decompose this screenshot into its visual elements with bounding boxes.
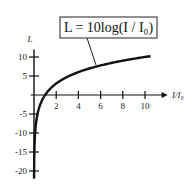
y-tick-label: -15: [15, 147, 27, 157]
y-tick-label: 10: [18, 52, 28, 62]
x-axis-arrow: [162, 92, 168, 98]
y-tick-label: -10: [15, 128, 27, 138]
y-tick-label: -5: [20, 109, 28, 119]
axes: [31, 49, 168, 178]
annotation-text: L = 10log(I / I₀): [64, 20, 154, 36]
y-tick-label: -20: [15, 166, 27, 176]
x-tick-label: 8: [121, 101, 126, 111]
x-tick-label: 4: [76, 101, 81, 111]
chart: 246810105-5-10-15-20 L I/I₀ L = 10log(I …: [0, 0, 193, 187]
y-tick-label: 5: [23, 71, 28, 81]
series-curve: [34, 56, 150, 178]
x-tick-label: 10: [141, 101, 151, 111]
x-tick-label: 6: [98, 101, 103, 111]
annotation-leader-line: [87, 38, 96, 65]
x-axis-label: I/I₀: [171, 90, 184, 100]
x-tick-label: 2: [54, 101, 59, 111]
y-axis-label: L: [26, 34, 32, 44]
